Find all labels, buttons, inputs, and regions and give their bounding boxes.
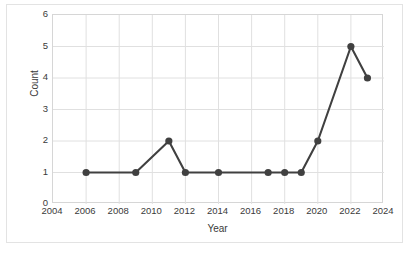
x-tick-label-2014: 2014 <box>207 206 228 216</box>
data-point-2012 <box>182 169 189 176</box>
plot-svg <box>53 15 384 204</box>
data-point-2009 <box>132 169 139 176</box>
y-tick-label-6: 6 <box>28 9 48 19</box>
y-tick-label-2: 2 <box>28 135 48 145</box>
data-point-2022 <box>364 74 371 81</box>
data-point-2018 <box>281 169 288 176</box>
x-axis-title: Year <box>52 223 383 234</box>
x-tick-label-2012: 2012 <box>174 206 195 216</box>
data-point-2019 <box>298 169 305 176</box>
data-point-2011 <box>165 137 172 144</box>
x-tick-label-2004: 2004 <box>41 206 62 216</box>
x-tick-label-2010: 2010 <box>141 206 162 216</box>
x-tick-label-2022: 2022 <box>339 206 360 216</box>
x-tick-label-2018: 2018 <box>273 206 294 216</box>
plot-area <box>52 14 383 203</box>
y-tick-label-1: 1 <box>28 167 48 177</box>
data-point-2021 <box>347 43 354 50</box>
x-axis-tick-labels: 2004 2006 2008 2010 2012 2014 2016 2018 … <box>52 206 383 220</box>
data-point-2020 <box>314 137 321 144</box>
y-axis-title: Count <box>29 54 40 114</box>
data-point-2017 <box>265 169 272 176</box>
y-tick-label-5: 5 <box>28 41 48 51</box>
x-tick-label-2020: 2020 <box>306 206 327 216</box>
x-tick-label-2006: 2006 <box>75 206 96 216</box>
data-point-2006 <box>83 169 90 176</box>
x-tick-label-2016: 2016 <box>240 206 261 216</box>
data-point-2014 <box>215 169 222 176</box>
x-tick-label-2024: 2024 <box>372 206 393 216</box>
x-tick-label-2008: 2008 <box>108 206 129 216</box>
chart-figure: 0 1 2 3 4 5 6 <box>0 0 411 259</box>
